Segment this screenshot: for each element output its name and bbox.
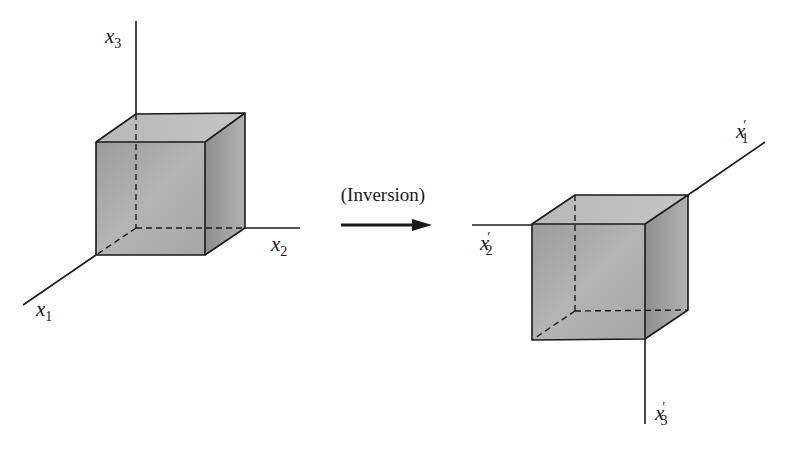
x3-label: x3 (104, 24, 121, 51)
x1-axis (23, 255, 96, 305)
cube-front-face (532, 224, 645, 340)
inversion-diagram: x3 x2 x1 (Inversion) (0, 0, 790, 450)
x2-label: x2 (270, 232, 287, 259)
original-cube-figure: x3 x2 x1 (23, 21, 300, 324)
x1-label: x1 (35, 297, 52, 324)
x1-prime-axis (688, 142, 765, 195)
x3-prime-label: x′3 (654, 400, 667, 428)
cube-front-face (96, 142, 205, 255)
x2-prime-label: x′2 (479, 230, 492, 258)
inversion-label: (Inversion) (341, 184, 425, 206)
inverted-cube-figure: x′1 x′2 x′3 (472, 118, 765, 428)
inversion-transform: (Inversion) (341, 184, 432, 231)
right-arrow-icon (412, 219, 432, 231)
x1-prime-label: x′1 (735, 118, 748, 146)
